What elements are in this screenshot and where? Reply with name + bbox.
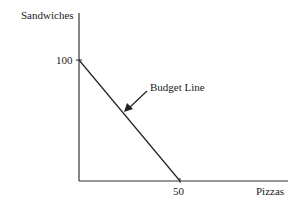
chart-plot <box>0 0 302 206</box>
annotation-label: Budget Line <box>150 82 205 93</box>
y-tick-label: 100 <box>56 55 73 66</box>
x-axis-label: Pizzas <box>256 186 284 197</box>
annotation-arrow <box>129 91 147 108</box>
budget-line <box>79 60 180 181</box>
y-axis-label: Sandwiches <box>21 10 74 21</box>
x-tick-label: 50 <box>173 186 184 197</box>
arrowhead-icon <box>124 103 133 112</box>
budget-line-chart: Sandwiches 100 Budget Line 50 Pizzas <box>0 0 302 206</box>
